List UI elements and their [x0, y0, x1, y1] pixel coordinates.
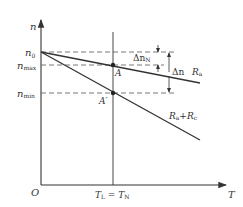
delta-nn-label: ΔnN	[133, 53, 151, 63]
delta-n-label: Δn	[172, 67, 184, 77]
nmax-label: nmax	[17, 60, 37, 71]
point-a-label: A	[114, 68, 122, 78]
point-a-prime	[111, 91, 115, 95]
y-axis-label: n	[30, 21, 36, 32]
origin-label: O	[31, 187, 39, 198]
ra-rc-label: Ra+Rc	[168, 111, 198, 121]
n0-label: n0	[25, 47, 35, 59]
x-axis-label: T	[228, 189, 236, 200]
n-t-diagram: n T O n0 nmax nmin TL = TN A A′ ΔnN Δn R…	[0, 0, 243, 207]
point-a-prime-label: A′	[98, 96, 108, 106]
tl-tn-label: TL = TN	[95, 190, 130, 200]
ra-label: Ra	[191, 67, 203, 77]
nmin-label: nmin	[17, 88, 35, 99]
point-a	[111, 63, 115, 67]
ra-rc-curve	[41, 52, 200, 140]
